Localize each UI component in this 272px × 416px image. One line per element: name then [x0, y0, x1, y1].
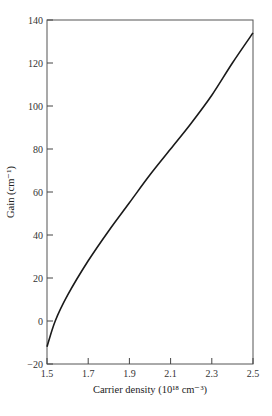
x-axis-ticks: 1.51.71.92.12.32.5 — [41, 358, 260, 379]
y-tick-label: 120 — [28, 58, 43, 69]
x-tick-label: 2.1 — [164, 368, 177, 379]
gain-curve — [47, 33, 253, 347]
y-tick-label: 20 — [33, 273, 43, 284]
gain-vs-carrier-density-chart: −20020406080100120140 1.51.71.92.12.32.5… — [0, 0, 272, 416]
y-tick-label: 60 — [33, 187, 43, 198]
x-axis-title: Carrier density (10¹⁸ cm⁻³) — [93, 384, 208, 396]
y-tick-label: 80 — [33, 144, 43, 155]
x-tick-label: 1.7 — [82, 368, 95, 379]
x-tick-label: 1.5 — [41, 368, 54, 379]
x-tick-label: 1.9 — [123, 368, 136, 379]
y-axis-title: Gain (cm⁻¹) — [5, 166, 17, 219]
y-tick-label: 40 — [33, 230, 43, 241]
plot-frame — [47, 20, 253, 364]
x-tick-label: 2.3 — [206, 368, 219, 379]
x-tick-label: 2.5 — [247, 368, 260, 379]
y-tick-label: 0 — [38, 316, 43, 327]
y-tick-label: 100 — [28, 101, 43, 112]
y-tick-label: 140 — [28, 15, 43, 26]
y-axis-ticks: −20020406080100120140 — [27, 15, 53, 370]
plot-border — [47, 20, 253, 364]
